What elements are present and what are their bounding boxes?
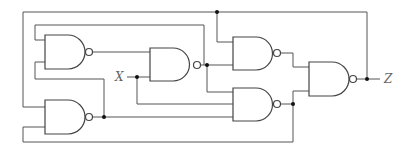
wire-g2-to-g4: [207, 65, 233, 92]
nand-gate-4: [233, 88, 281, 121]
junction-top: [215, 10, 219, 14]
wire-g3-to-g5: [280, 53, 309, 67]
junction-z: [365, 77, 369, 81]
nand-gate-3: [233, 37, 281, 70]
logic-circuit-diagram: X Z: [0, 0, 416, 150]
wire-top-to-g3: [217, 12, 233, 42]
input-label-x: X: [114, 70, 124, 84]
nand-gate-2: [150, 48, 201, 81]
wire-g4-to-g5: [280, 91, 309, 104]
output-label-z: Z: [383, 72, 393, 86]
junction-g4-out: [291, 102, 295, 106]
nand-gate-6: [45, 100, 93, 134]
junction-g6-out: [102, 115, 106, 119]
nand-gate-1: [45, 35, 93, 69]
junction-x: [135, 75, 139, 79]
junction-g2-out: [205, 63, 209, 67]
nand-gate-5: [309, 62, 357, 96]
